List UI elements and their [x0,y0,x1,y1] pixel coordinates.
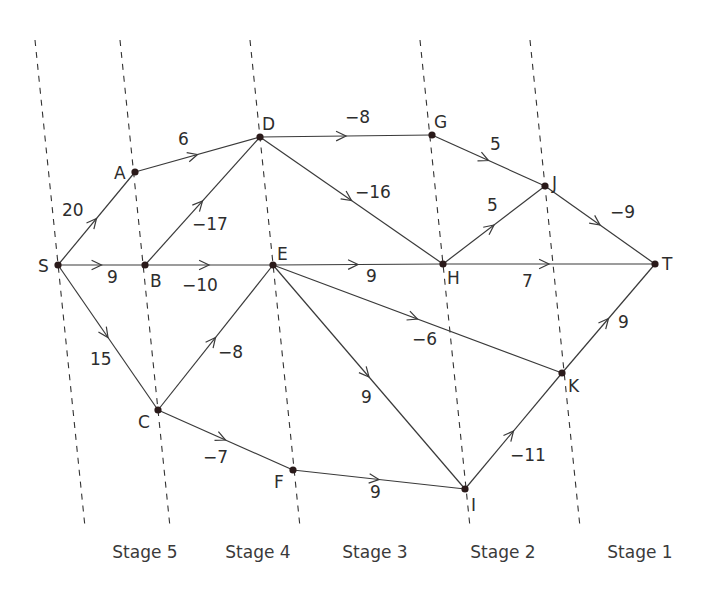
node-E [269,261,276,268]
stage-network-diagram: 209156−17−10−8−7−8−169−699557−11−99 SABC… [0,0,716,589]
stage-boundary-line [35,40,85,527]
edge-weight-label: −11 [510,445,546,465]
edge-weight-label: −16 [355,182,391,202]
node-D [256,133,263,140]
node-C [154,406,161,413]
node-H [439,260,446,267]
node-T [651,260,658,267]
stage-label: Stage 4 [225,542,290,562]
edge-weight-label: 15 [90,349,112,369]
node-label: F [274,472,284,492]
edge-weight-label: −8 [218,342,243,362]
edge-weight-label: 9 [618,312,629,332]
stage-boundary-line [120,40,170,527]
node-label: D [262,114,275,134]
node-label: T [661,254,673,274]
node-G [428,131,435,138]
edge-weight-label: −8 [345,107,370,127]
node-label: H [447,268,460,288]
node-label: E [277,244,288,264]
node-K [558,369,565,376]
stage-label: Stage 3 [342,542,407,562]
node-label: G [434,112,447,132]
edge-weight-label: −9 [610,202,635,222]
edge-weight-labels: 209156−17−10−8−7−8−169−699557−11−99 [62,107,635,502]
node-label: A [114,163,126,183]
edge-weight-label: −7 [203,447,228,467]
edge-weight-label: −6 [412,329,437,349]
stage-label: Stage 5 [112,542,177,562]
node-S [54,261,61,268]
stage-label: Stage 1 [607,542,672,562]
node-label: J [551,173,557,193]
edge-weight-label: 9 [107,267,118,287]
edge-weight-label: 20 [62,200,84,220]
edge-weight-label: 5 [490,134,501,154]
edge-weight-label: −17 [192,214,228,234]
edge-weight-label: 9 [370,482,381,502]
edge-weight-label: −10 [182,275,218,295]
node-B [141,261,148,268]
edge-weight-label: 9 [366,266,377,286]
edge-weight-label: 9 [361,387,372,407]
node-label: K [568,376,580,396]
edge-weight-label: 5 [487,195,498,215]
node-label: C [138,412,150,432]
edge-weight-label: 7 [522,271,533,291]
node-label: S [38,256,49,276]
node-label: I [471,495,476,515]
node-J [541,182,548,189]
stage-label: Stage 2 [470,542,535,562]
node-I [461,485,468,492]
node-A [131,168,138,175]
node-label: B [150,271,162,291]
stage-labels: Stage 5Stage 4Stage 3Stage 2Stage 1 [112,542,672,562]
node-F [289,466,296,473]
edge-weight-label: 6 [178,129,189,149]
